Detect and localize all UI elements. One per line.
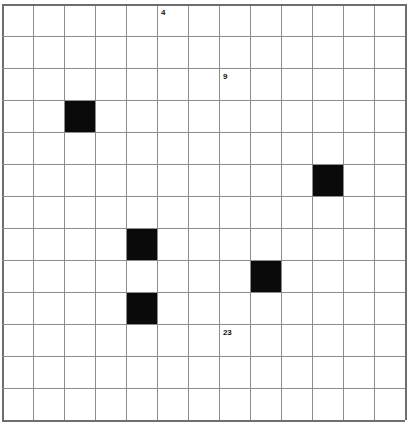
grid-line-horizontal xyxy=(2,36,405,37)
grid-cell-filled[interactable] xyxy=(127,229,157,260)
grid-line-vertical xyxy=(95,4,96,420)
grid-line-horizontal xyxy=(2,164,405,165)
grid-line-horizontal xyxy=(2,132,405,133)
grid-line-vertical xyxy=(219,4,220,420)
grid-cell-label: 23 xyxy=(223,328,232,338)
grid-container[interactable]: 4923 xyxy=(2,4,405,420)
grid-line-horizontal xyxy=(2,292,405,293)
grid-cell-filled[interactable] xyxy=(65,101,95,132)
grid-canvas: 4923 xyxy=(0,0,413,430)
grid-line-vertical xyxy=(250,4,251,420)
grid-cell-label: 4 xyxy=(161,8,165,18)
grid-cell-filled[interactable] xyxy=(313,165,343,196)
grid-line-horizontal xyxy=(2,356,405,357)
grid-line-horizontal xyxy=(2,260,405,261)
grid-line-vertical xyxy=(33,4,34,420)
grid-line-vertical xyxy=(157,4,158,420)
grid-line-horizontal xyxy=(2,420,405,422)
grid-line-horizontal xyxy=(2,100,405,101)
grid-line-vertical xyxy=(405,4,407,420)
grid-cell-label: 9 xyxy=(223,72,227,82)
grid-line-horizontal xyxy=(2,324,405,325)
grid-line-horizontal xyxy=(2,388,405,389)
grid-line-vertical xyxy=(343,4,344,420)
grid-line-horizontal xyxy=(2,228,405,229)
grid-line-vertical xyxy=(64,4,65,420)
grid-line-horizontal xyxy=(2,196,405,197)
grid-line-vertical xyxy=(188,4,189,420)
grid-line-vertical xyxy=(2,4,4,420)
grid-line-horizontal xyxy=(2,4,405,6)
grid-line-vertical xyxy=(281,4,282,420)
grid-line-vertical xyxy=(126,4,127,420)
grid-line-vertical xyxy=(312,4,313,420)
grid-line-horizontal xyxy=(2,68,405,69)
grid-line-vertical xyxy=(374,4,375,420)
grid-cell-filled[interactable] xyxy=(127,293,157,324)
grid-cell-filled[interactable] xyxy=(251,261,281,292)
